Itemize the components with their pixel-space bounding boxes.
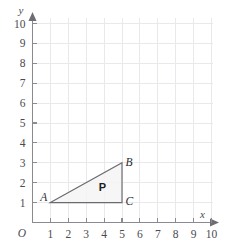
- x-tick-label: 6: [137, 228, 143, 240]
- grid-lines-horizontal: [33, 24, 214, 203]
- coordinate-plane: 12345678910 12345678910 A B C P x y O: [0, 0, 230, 244]
- x-tick-label: 10: [206, 228, 218, 240]
- x-tick-label: 4: [101, 228, 107, 240]
- y-tick-label: 4: [20, 137, 26, 149]
- x-tick-label: 9: [191, 228, 197, 240]
- vertex-label-a: A: [39, 191, 48, 203]
- y-axis-name: y: [18, 4, 24, 16]
- x-tick-label: 1: [48, 228, 54, 240]
- y-tick-label: 1: [20, 197, 26, 209]
- x-tick-label: 2: [65, 228, 71, 240]
- y-tick-label: 7: [20, 77, 26, 89]
- y-tick-label: 3: [20, 157, 26, 169]
- y-tick-label: 9: [20, 37, 26, 49]
- x-axis-tick-labels: 12345678910: [48, 228, 218, 240]
- x-axis-name: x: [199, 208, 205, 220]
- vertex-label-c: C: [126, 195, 134, 207]
- shape-label-p: P: [99, 181, 106, 193]
- x-tick-label: 7: [155, 228, 161, 240]
- y-tick-label: 6: [20, 97, 26, 109]
- y-axis-tick-labels: 12345678910: [14, 18, 26, 209]
- x-tick-label: 3: [83, 228, 89, 240]
- origin-label: O: [18, 227, 27, 239]
- vertex-label-b: B: [126, 156, 133, 168]
- y-axis-arrow-icon: [29, 12, 37, 21]
- coordinate-grid-figure: 12345678910 12345678910 A B C P x y O: [0, 0, 230, 244]
- x-tick-label: 8: [173, 228, 179, 240]
- y-tick-label: 5: [20, 117, 26, 129]
- y-tick-label: 2: [20, 177, 26, 189]
- x-tick-label: 5: [119, 228, 125, 240]
- y-tick-label: 8: [20, 57, 26, 69]
- y-tick-label: 10: [14, 18, 26, 30]
